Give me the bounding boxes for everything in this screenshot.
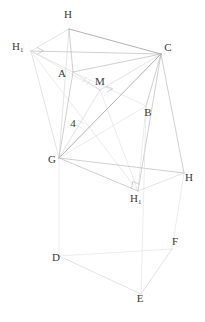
label-C: C — [164, 41, 171, 53]
geometry-canvas: HH1CAMB4GHH1FDE — [0, 0, 205, 322]
label-E: E — [137, 292, 144, 304]
label-D: D — [52, 251, 60, 263]
figure-background — [0, 0, 205, 322]
label-G: G — [48, 153, 56, 165]
label-4: 4 — [70, 117, 76, 129]
label-A: A — [58, 67, 66, 79]
label-H-top: H — [64, 8, 72, 20]
label-F: F — [172, 235, 178, 247]
label-H-right: H — [185, 171, 193, 183]
label-M: M — [95, 75, 105, 87]
geometry-figure: HH1CAMB4GHH1FDE — [0, 0, 205, 322]
label-B: B — [144, 106, 151, 118]
